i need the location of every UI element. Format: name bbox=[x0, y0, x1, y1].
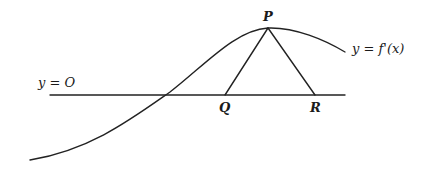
point-label-r: R bbox=[309, 100, 321, 115]
segment-pr bbox=[268, 28, 315, 95]
point-label-q: Q bbox=[219, 100, 231, 115]
axis-label: y = O bbox=[37, 75, 76, 90]
segment-pq bbox=[225, 28, 268, 95]
point-label-p: P bbox=[262, 9, 274, 24]
diagram-canvas: y = O y = f'(x) P Q R bbox=[0, 0, 422, 175]
curve-label: y = f'(x) bbox=[351, 41, 404, 56]
curve-f-prime bbox=[30, 28, 345, 160]
